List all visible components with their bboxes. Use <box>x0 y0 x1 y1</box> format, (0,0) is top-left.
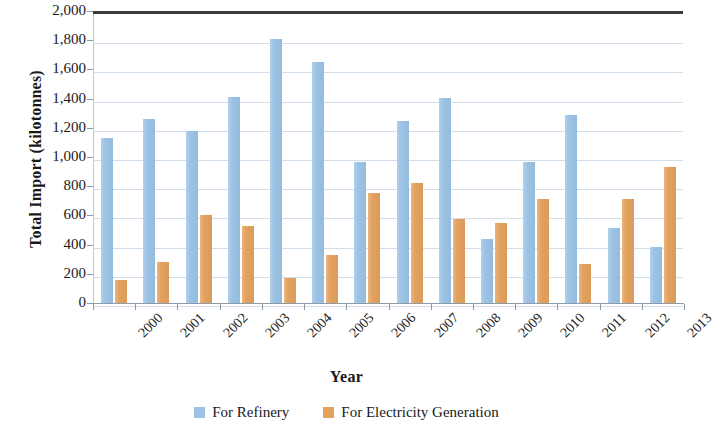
x-axis-tick <box>684 304 685 310</box>
bar-refinery-2011 <box>565 115 577 303</box>
y-tick-label: 400 <box>0 237 86 252</box>
bar-electricity-2009 <box>495 223 507 303</box>
bar-refinery-2013 <box>650 247 662 303</box>
y-tick-label: 200 <box>0 266 86 281</box>
x-axis-tick <box>600 304 601 310</box>
bar-electricity-2008 <box>453 219 465 303</box>
square-swatch-orange <box>323 407 334 418</box>
x-axis-tick <box>93 304 94 310</box>
y-axis-tick <box>87 128 93 129</box>
legend-label: For Electricity Generation <box>341 404 498 421</box>
y-tick-label: 1,000 <box>0 149 86 164</box>
chart-legend: For RefineryFor Electricity Generation <box>0 404 693 421</box>
y-axis-tick <box>87 186 93 187</box>
x-axis-tick <box>389 304 390 310</box>
bar-electricity-2000 <box>115 280 127 303</box>
bar-electricity-2004 <box>284 278 296 303</box>
x-tick-label-2002: 2002 <box>220 310 251 341</box>
x-tick-label-2005: 2005 <box>346 310 377 341</box>
bar-refinery-2012 <box>608 228 620 303</box>
y-axis-tick <box>87 215 93 216</box>
x-tick-label-2004: 2004 <box>304 310 335 341</box>
y-tick-label: 1,200 <box>0 120 86 135</box>
x-axis-tick <box>557 304 558 310</box>
y-tick-label: 2,000 <box>0 3 86 18</box>
bar-refinery-2000 <box>101 138 113 303</box>
x-tick-label-2000: 2000 <box>135 310 166 341</box>
bar-electricity-2011 <box>579 264 591 303</box>
y-tick-label: 1,400 <box>0 91 86 106</box>
x-axis-tick-labels: 2000200120022003200420052006200720082009… <box>93 310 684 365</box>
x-tick-label-2013: 2013 <box>684 310 715 341</box>
bar-electricity-2001 <box>157 262 169 303</box>
bar-refinery-2001 <box>143 119 155 303</box>
y-tick-label: 1,600 <box>0 61 86 76</box>
bar-electricity-2005 <box>326 255 338 303</box>
y-axis-tick <box>87 40 93 41</box>
x-axis-tick <box>431 304 432 310</box>
x-axis-tick <box>262 304 263 310</box>
y-axis-tick <box>87 99 93 100</box>
bars-layer <box>93 11 684 303</box>
legend-item-refinery[interactable]: For Refinery <box>194 404 289 421</box>
square-swatch-blue <box>194 407 205 418</box>
y-axis-tick <box>87 69 93 70</box>
x-axis-tick <box>220 304 221 310</box>
x-axis-tick <box>135 304 136 310</box>
x-tick-label-2011: 2011 <box>600 310 631 341</box>
x-axis-tick <box>177 304 178 310</box>
bar-electricity-2003 <box>242 226 254 303</box>
legend-item-electricity[interactable]: For Electricity Generation <box>323 404 498 421</box>
y-axis-tick <box>87 245 93 246</box>
bar-refinery-2007 <box>397 121 409 304</box>
bar-refinery-2009 <box>481 239 493 303</box>
bar-refinery-2010 <box>523 162 535 303</box>
x-tick-label-2003: 2003 <box>262 310 293 341</box>
bar-electricity-2007 <box>411 183 423 303</box>
y-axis-tick <box>87 274 93 275</box>
y-tick-label: 600 <box>0 207 86 222</box>
bar-refinery-2008 <box>439 98 451 303</box>
bar-electricity-2012 <box>622 199 634 303</box>
y-axis-tick <box>87 157 93 158</box>
y-tick-label: 800 <box>0 178 86 193</box>
legend-label: For Refinery <box>212 404 289 421</box>
x-tick-label-2007: 2007 <box>431 310 462 341</box>
x-axis-tick <box>642 304 643 310</box>
x-tick-label-2006: 2006 <box>389 310 420 341</box>
x-tick-label-2009: 2009 <box>515 310 546 341</box>
bar-refinery-2003 <box>228 97 240 303</box>
y-tick-label: 1,800 <box>0 32 86 47</box>
x-axis-title: Year <box>0 368 693 386</box>
x-axis-tick <box>346 304 347 310</box>
x-axis-tick <box>304 304 305 310</box>
bar-electricity-2013 <box>664 167 676 304</box>
x-tick-label-2012: 2012 <box>642 310 673 341</box>
bar-electricity-2002 <box>200 215 212 303</box>
y-axis-tick <box>87 11 93 12</box>
x-axis-tick <box>515 304 516 310</box>
y-axis-tick-labels: 02004006008001,0001,2001,4001,6001,8002,… <box>0 0 86 320</box>
x-axis-tick <box>473 304 474 310</box>
y-tick-label: 0 <box>0 295 86 310</box>
bar-refinery-2006 <box>354 162 366 303</box>
bar-electricity-2010 <box>537 199 549 303</box>
x-tick-label-2001: 2001 <box>178 310 209 341</box>
bar-electricity-2006 <box>368 193 380 303</box>
x-tick-label-2008: 2008 <box>473 310 504 341</box>
bar-refinery-2005 <box>312 62 324 303</box>
x-tick-label-2010: 2010 <box>557 310 588 341</box>
bar-refinery-2004 <box>270 39 282 303</box>
bar-refinery-2002 <box>186 131 198 303</box>
